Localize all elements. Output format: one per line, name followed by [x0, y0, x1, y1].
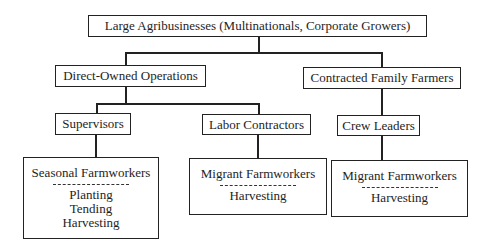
dashed-divider — [220, 185, 296, 186]
node-label: Contracted Family Farmers — [311, 71, 454, 85]
node-title: Seasonal Farmworkers — [32, 166, 151, 180]
node-migrant-farmworkers-crew: Migrant Farmworkers Harvesting — [331, 160, 468, 217]
task-label: Tending — [70, 202, 112, 216]
connector-direct-owned-down — [125, 87, 127, 104]
connector-to-labor-contractors — [258, 103, 260, 114]
task-label: Harvesting — [62, 216, 119, 230]
node-direct-owned-operations: Direct-Owned Operations — [55, 65, 206, 87]
node-migrant-farmworkers-labor: Migrant Farmworkers Harvesting — [189, 158, 327, 215]
task-label: Harvesting — [229, 189, 286, 203]
node-seasonal-farmworkers: Seasonal Farmworkers Planting Tending Ha… — [23, 157, 159, 239]
connector-crew-to-migrant — [381, 135, 383, 160]
task-label: Planting — [69, 188, 112, 202]
node-label: Direct-Owned Operations — [63, 69, 198, 83]
connector-level2-bar — [96, 103, 259, 105]
node-contracted-family-farmers: Contracted Family Farmers — [303, 67, 461, 89]
node-label: Supervisors — [62, 117, 123, 131]
dashed-divider — [53, 184, 129, 185]
dashed-divider — [362, 187, 438, 188]
node-large-agribusinesses: Large Agribusinesses (Multinationals, Co… — [88, 15, 427, 37]
node-label: Crew Leaders — [342, 119, 415, 133]
connector-contracted-to-crew — [381, 88, 383, 115]
node-label: Large Agribusinesses (Multinationals, Co… — [105, 19, 411, 33]
connector-labor-to-migrant — [257, 134, 259, 158]
connector-level1-bar — [125, 52, 382, 54]
task-label: Harvesting — [371, 191, 428, 205]
connector-to-contracted — [381, 52, 383, 67]
node-supervisors: Supervisors — [55, 113, 131, 135]
node-title: Migrant Farmworkers — [201, 167, 315, 181]
node-title: Migrant Farmworkers — [342, 169, 456, 183]
node-label: Labor Contractors — [209, 118, 304, 132]
node-labor-contractors: Labor Contractors — [202, 114, 311, 135]
node-crew-leaders: Crew Leaders — [337, 115, 420, 136]
connector-to-direct-owned — [125, 52, 127, 65]
connector-supervisors-to-seasonal — [95, 134, 97, 157]
connector-to-supervisors — [96, 103, 98, 113]
